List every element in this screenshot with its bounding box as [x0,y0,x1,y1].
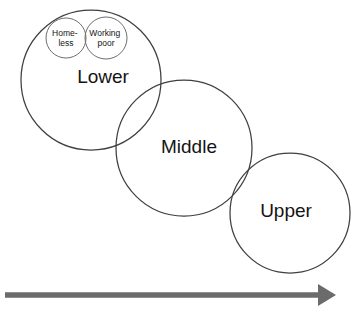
label-working-poor-subgroup: Working poor [89,28,122,48]
label-upper-class: Upper [260,200,312,221]
status-axis-arrow-head [318,284,336,306]
social-class-diagram: Lower Middle Upper Home- less Working po… [0,0,359,314]
label-working-poor-line2: poor [97,38,114,48]
label-homeless-line2: less [58,38,73,48]
label-working-poor-line1: Working [89,28,120,38]
label-homeless-line1: Home- [52,28,78,38]
label-homeless-subgroup: Home- less [52,28,80,48]
label-lower-class: Lower [77,66,129,87]
label-middle-class: Middle [161,136,217,157]
diagram-canvas: Lower Middle Upper Home- less Working po… [0,0,359,314]
